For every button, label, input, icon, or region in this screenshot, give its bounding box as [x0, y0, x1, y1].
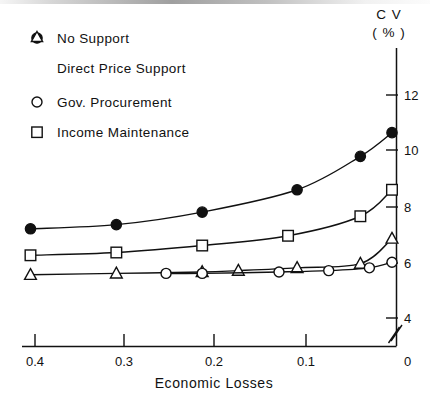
data-point-filled-circle	[292, 185, 302, 195]
legend-item-no-support: No Support	[32, 31, 129, 46]
legend: No Support Direct Price Support Gov. Pro…	[31, 31, 189, 140]
y-axis-break-icon	[389, 325, 403, 343]
chart-canvas: No Support Direct Price Support Gov. Pro…	[0, 0, 430, 398]
chart-figure: No Support Direct Price Support Gov. Pro…	[0, 0, 430, 398]
data-point-open-square	[355, 211, 366, 222]
x-tick-label-0-3: 0.3	[115, 354, 133, 369]
series-no-support	[25, 127, 397, 234]
x-tick-label-0-1: 0.1	[297, 354, 315, 369]
x-axis-title: Economic Losses	[155, 375, 274, 391]
legend-label-direct-price-support: Direct Price Support	[57, 61, 186, 76]
data-point-filled-circle	[197, 207, 207, 217]
data-point-open-circle	[197, 268, 207, 278]
data-point-open-square	[387, 184, 398, 195]
y-tick-label-0: 0	[404, 354, 411, 369]
open-square-icon	[32, 127, 42, 137]
series-line	[30, 190, 392, 256]
data-point-open-circle	[274, 267, 284, 277]
data-point-open-square	[283, 230, 294, 241]
data-point-open-circle	[387, 257, 397, 267]
data-point-open-circle	[324, 266, 334, 276]
data-point-filled-circle	[25, 224, 35, 234]
open-circle-icon	[32, 97, 42, 107]
legend-item-gov-procurement: Gov. Procurement	[32, 95, 172, 110]
legend-label-income-maintenance: Income Maintenance	[57, 125, 190, 140]
data-point-open-square	[111, 247, 122, 258]
y-axis-title-line1: C V	[376, 7, 402, 22]
data-point-filled-circle	[387, 127, 397, 137]
y-tick-label-6: 6	[404, 256, 411, 271]
y-tick-label-4: 4	[404, 311, 411, 326]
legend-item-income-maintenance: Income Maintenance	[32, 125, 190, 140]
y-axis-title-line2: ( % )	[372, 25, 406, 40]
series-income-maintenance	[25, 184, 397, 260]
y-tick-label-8: 8	[404, 200, 411, 215]
series-direct-price-support	[25, 232, 398, 279]
series-line	[30, 133, 392, 229]
x-axis-ticks	[35, 334, 306, 347]
data-point-filled-circle	[355, 151, 365, 161]
legend-label-gov-procurement: Gov. Procurement	[57, 95, 172, 110]
data-point-open-square	[197, 240, 208, 251]
y-tick-label-12: 12	[404, 88, 418, 103]
legend-label-no-support: No Support	[57, 31, 129, 46]
plot-area	[25, 127, 398, 279]
data-point-open-triangle	[25, 269, 37, 280]
data-point-filled-circle	[111, 219, 121, 229]
y-axis-tick-labels: 12 10 8 6 4 0	[404, 88, 418, 369]
x-axis-tick-labels: 0.4 0.3 0.2 0.1	[26, 354, 315, 369]
data-point-open-circle	[161, 268, 171, 278]
data-point-open-circle	[364, 263, 374, 273]
data-point-open-square	[25, 250, 36, 261]
x-tick-label-0-2: 0.2	[205, 354, 223, 369]
x-tick-label-0-4: 0.4	[26, 354, 44, 369]
data-point-open-triangle	[110, 267, 122, 278]
y-axis-title: C V ( % )	[372, 7, 406, 40]
scan-artifact-strip	[0, 0, 430, 4]
y-tick-label-10: 10	[404, 143, 418, 158]
